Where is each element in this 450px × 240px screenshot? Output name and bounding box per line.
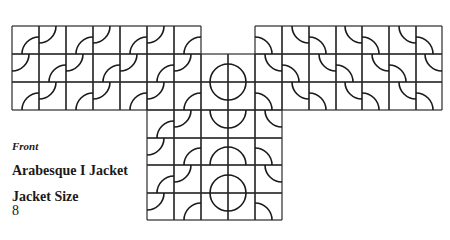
pattern-title: Arabesque I Jacket (12, 163, 128, 179)
jacket-front-diagram (0, 0, 450, 240)
size-value: 8 (12, 204, 19, 218)
view-label: Front (12, 140, 38, 152)
size-heading: Jacket Size (12, 190, 78, 204)
